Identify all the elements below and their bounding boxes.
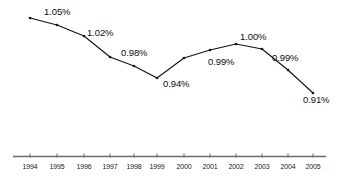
x-tick-label-1995: 1995 — [50, 163, 65, 170]
x-tick-label-1996: 1996 — [77, 163, 92, 170]
x-tick-label-1999: 1999 — [150, 163, 165, 170]
x-tick-label-1998: 1998 — [127, 163, 142, 170]
x-tick-label-2004: 2004 — [281, 163, 296, 170]
x-tick-label-2002: 2002 — [229, 163, 244, 170]
data-label-1999: 0.94% — [163, 79, 189, 89]
data-label-1996: 1.02% — [87, 28, 113, 38]
data-label-2005: 0.91% — [303, 95, 329, 105]
data-point-1994 — [29, 17, 32, 20]
data-label-2001: 0.99% — [208, 57, 234, 67]
data-point-1997 — [109, 56, 112, 59]
line-chart: 1.05% 1.02% 0.98% 0.94% 0.99% 1.00% 0.99… — [0, 0, 344, 178]
data-point-2004 — [287, 69, 290, 72]
x-tick-label-2005: 2005 — [306, 163, 321, 170]
x-tick-label-2001: 2001 — [203, 163, 218, 170]
data-point-2001 — [209, 49, 212, 52]
data-point-1998 — [133, 65, 136, 68]
data-point-2002 — [235, 43, 238, 46]
data-point-1996 — [83, 35, 86, 38]
x-tick-label-1994: 1994 — [23, 163, 38, 170]
data-label-1998: 0.98% — [121, 48, 147, 58]
data-label-1994: 1.05% — [44, 7, 70, 17]
data-point-2000 — [183, 57, 186, 60]
x-tick-label-2003: 2003 — [255, 163, 270, 170]
data-point-2003 — [261, 48, 264, 51]
data-label-2003: 0.99% — [272, 53, 298, 63]
data-label-2002: 1.00% — [240, 32, 266, 42]
data-point-1995 — [56, 24, 59, 27]
x-tick-label-2000: 2000 — [177, 163, 192, 170]
x-tick-label-1997: 1997 — [103, 163, 118, 170]
data-point-1999 — [156, 77, 159, 80]
chart-plot-area — [0, 0, 344, 178]
